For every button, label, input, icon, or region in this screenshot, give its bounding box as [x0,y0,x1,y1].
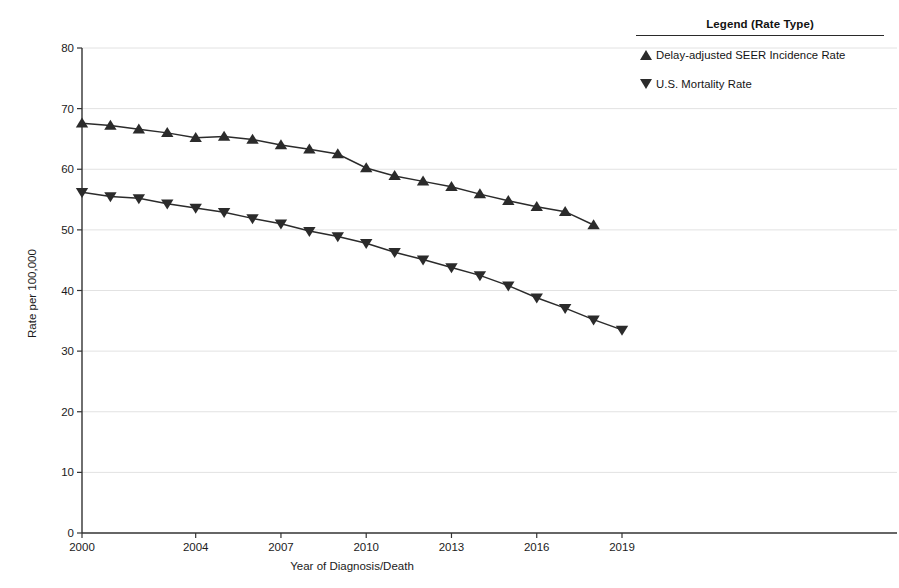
y-axis-tick-label: 30 [40,345,74,357]
triangle-down-icon [636,79,656,89]
legend-item-label: Delay-adjusted SEER Incidence Rate [656,49,845,61]
series-line-0 [82,123,594,225]
data-point-marker[interactable] [218,131,230,141]
x-axis-tick-label: 2004 [183,541,209,553]
data-point-marker[interactable] [559,304,571,314]
x-axis-tick-label: 2000 [69,541,95,553]
data-point-marker[interactable] [360,162,372,172]
x-axis-title: Year of Diagnosis/Death [290,560,414,572]
y-axis-tick-label: 60 [40,163,74,175]
data-point-marker[interactable] [76,117,88,127]
legend-item-incidence[interactable]: Delay-adjusted SEER Incidence Rate [636,47,884,63]
y-axis-tick-label: 70 [40,103,74,115]
chart-container: 0102030405060708020002004200720102013201… [0,0,899,588]
y-axis-title: Rate per 100,000 [26,249,38,338]
x-axis-tick-label: 2007 [268,541,294,553]
y-axis-tick-label: 50 [40,224,74,236]
y-axis-tick-label: 10 [40,466,74,478]
legend-divider [636,35,884,36]
x-axis-tick-label: 2016 [524,541,550,553]
data-point-marker[interactable] [587,219,599,229]
data-point-marker[interactable] [502,281,514,291]
y-axis-tick-label: 40 [40,285,74,297]
legend-item-mortality[interactable]: U.S. Mortality Rate [636,76,884,92]
legend: Legend (Rate Type) Delay-adjusted SEER I… [636,18,884,105]
data-point-marker[interactable] [616,326,628,336]
x-axis-tick-label: 2013 [439,541,465,553]
x-axis-tick-label: 2019 [609,541,635,553]
series-line-1 [82,192,622,330]
x-axis-tick-label: 2010 [353,541,379,553]
y-axis-tick-label: 0 [40,527,74,539]
triangle-up-icon [636,50,656,60]
y-axis-tick-label: 20 [40,406,74,418]
legend-title: Legend (Rate Type) [636,18,884,35]
y-axis-tick-label: 80 [40,42,74,54]
legend-item-label: U.S. Mortality Rate [656,78,752,90]
